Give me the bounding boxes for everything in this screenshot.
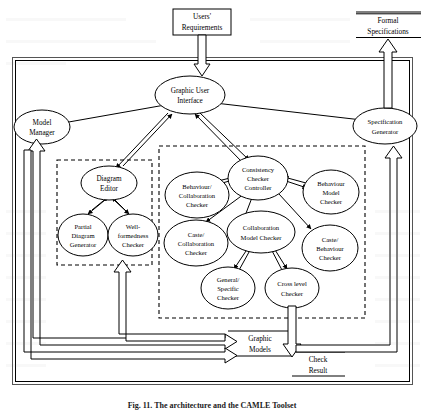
graphic-models-line1: Graphic — [248, 334, 272, 343]
node-label-ccheck-line3: Checker — [185, 249, 208, 256]
node-label-wfc-line2: formedness — [118, 232, 149, 239]
figure-root: Graphic User Interface Model Manager Spe… — [0, 0, 425, 412]
node-label-bmc-line1: Behaviour — [317, 180, 345, 187]
node-label-ccheck-line2: Collaboration — [178, 240, 215, 247]
node-caste-behaviour-checker[interactable]: Caste/ Behaviour Checker — [302, 225, 358, 271]
node-label-pdg-line2: Diagram — [71, 232, 95, 239]
node-caste-collaboration-checker[interactable]: Caste/ Collaboration Checker — [164, 220, 228, 266]
users-requirements-line1: Users' — [193, 12, 212, 21]
caption-label: Fig. 11. The architecture and the CAMLE … — [128, 401, 297, 410]
node-graphic-user-interface[interactable]: Graphic User Interface — [155, 76, 225, 114]
node-label-bcc-line1: Behaviour/ — [182, 183, 211, 190]
node-label-gsc-line2: Specific — [217, 285, 239, 292]
node-label-clc-line2: Checker — [281, 290, 304, 297]
node-specification-generator[interactable]: Specification Generator — [353, 108, 417, 144]
node-consistency-checker-controller[interactable]: Consistency Checker Controller — [228, 156, 288, 200]
node-well-formedness-checker[interactable]: Well- formedness Checker — [108, 214, 158, 256]
node-label-cbc-line1: Caste/ — [322, 236, 339, 243]
graphic-models-line2: Models — [249, 345, 271, 354]
users-requirements-line2: Requirements — [182, 23, 223, 32]
node-label-diagram-editor-line1: Diagram — [96, 175, 122, 183]
node-label-gui-line1: Graphic User — [171, 87, 210, 95]
node-label-pdg-line3: Generator — [70, 241, 97, 248]
node-label-diagram-editor-line2: Editor — [100, 185, 119, 193]
node-label-ccc-line2: Checker — [247, 175, 270, 182]
formal-specifications-line1: Formal — [377, 16, 398, 25]
node-label-bcc-line2: Collaboration — [179, 192, 216, 199]
node-label-bcc-line3: Checker — [186, 201, 209, 208]
check-result-line2: Result — [309, 366, 328, 375]
node-label-gui-line2: Interface — [177, 97, 203, 105]
node-label-gsc-line1: General/ — [217, 276, 240, 283]
node-partial-diagram-generator[interactable]: Partial Diagram Generator — [58, 214, 108, 256]
node-collaboration-model-checker[interactable]: Collaboration Model Checker — [227, 211, 295, 253]
node-general-specific-checker[interactable]: General/ Specific Checker — [201, 267, 255, 309]
node-label-cbc-line2: Behaviour — [316, 245, 344, 252]
external-users-requirements[interactable]: Users' Requirements — [173, 9, 231, 35]
datastore-check-result[interactable]: Check Result — [292, 352, 345, 376]
external-formal-specifications[interactable]: Formal Specifications — [356, 12, 421, 38]
node-label-gsc-line3: Checker — [217, 294, 240, 301]
flow-specgen-to-formalspec — [379, 39, 397, 108]
check-result-line1: Check — [309, 355, 328, 364]
node-label-clc-line1: Cross level — [277, 280, 307, 287]
node-label-ccheck-line1: Caste/ — [188, 231, 205, 238]
node-label-model-manager-line2: Manager — [29, 129, 55, 137]
node-label-cmc-line2: Model Checker — [241, 234, 283, 241]
node-behaviour-collaboration-checker[interactable]: Behaviour/ Collaboration Checker — [165, 172, 229, 218]
node-label-model-manager-line1: Model — [33, 119, 52, 127]
node-label-specgen-line1: Specification — [368, 118, 403, 125]
node-label-wfc-line1: Well- — [126, 223, 140, 230]
node-behaviour-model-checker[interactable]: Behaviour Model Checker — [303, 170, 359, 214]
flow-requirements-to-gui — [194, 35, 210, 76]
node-label-bmc-line3: Checker — [320, 198, 343, 205]
architecture-diagram: Graphic User Interface Model Manager Spe… — [0, 0, 425, 412]
node-label-ccc-line3: Controller — [244, 184, 272, 191]
figure-caption: Fig. 11. The architecture and the CAMLE … — [128, 401, 297, 410]
node-model-manager[interactable]: Model Manager — [14, 110, 70, 144]
node-label-cmc-line1: Collaboration — [243, 224, 280, 231]
node-label-cbc-line3: Checker — [319, 254, 342, 261]
node-label-bmc-line2: Model — [322, 189, 339, 196]
node-diagram-editor[interactable]: Diagram Editor — [81, 166, 137, 200]
formal-specifications-line2: Specifications — [367, 27, 408, 36]
node-label-ccc-line1: Consistency — [242, 166, 275, 173]
node-label-specgen-line2: Generator — [372, 128, 399, 135]
node-label-wfc-line3: Checker — [122, 241, 145, 248]
node-cross-level-checker[interactable]: Cross level Checker — [265, 268, 319, 308]
node-label-pdg-line1: Partial — [74, 223, 91, 230]
